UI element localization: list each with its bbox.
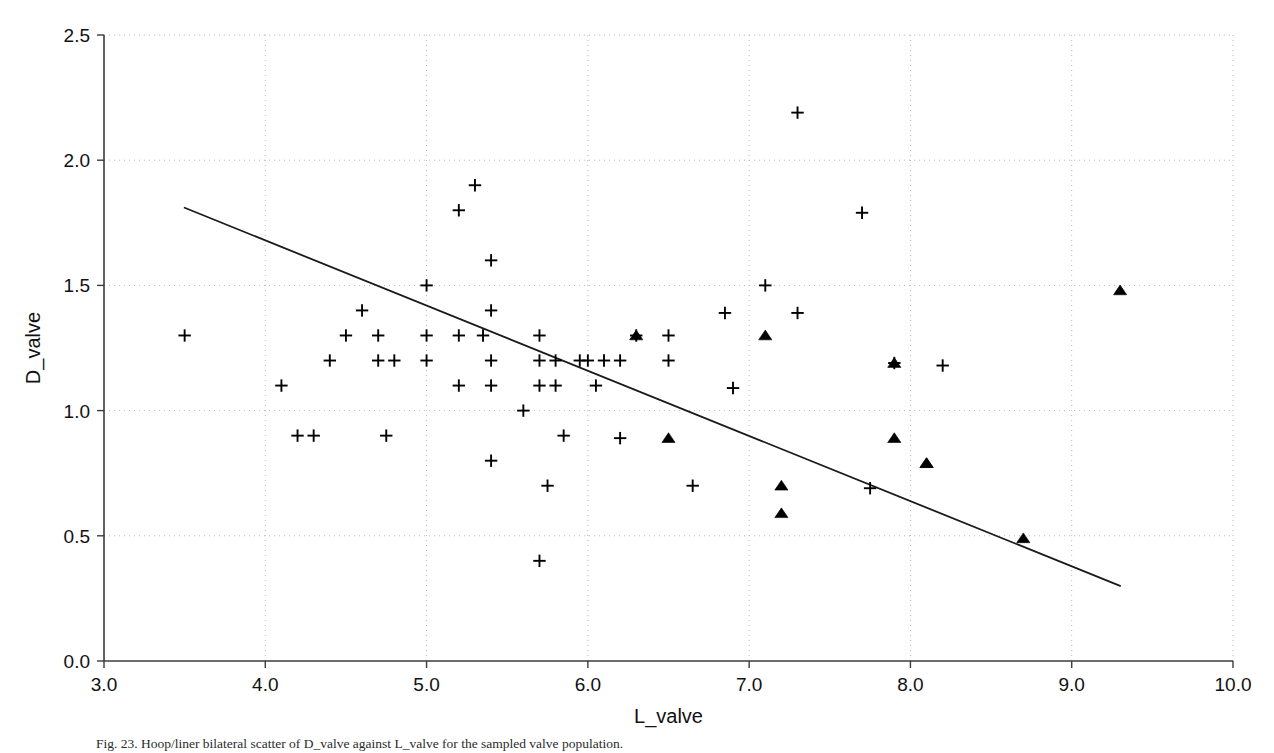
y-tick-label: 0.5 bbox=[64, 526, 90, 547]
x-tick-label: 7.0 bbox=[736, 674, 762, 695]
figure-container: 3.04.05.06.07.08.09.010.00.00.51.01.52.0… bbox=[0, 0, 1274, 753]
x-tick-label: 8.0 bbox=[897, 674, 923, 695]
y-tick-label: 1.5 bbox=[64, 275, 90, 296]
scatter-plot: 3.04.05.06.07.08.09.010.00.00.51.01.52.0… bbox=[0, 0, 1274, 753]
x-tick-label: 3.0 bbox=[91, 674, 117, 695]
x-tick-label: 6.0 bbox=[575, 674, 601, 695]
x-tick-label: 4.0 bbox=[252, 674, 278, 695]
y-tick-label: 1.0 bbox=[64, 401, 90, 422]
y-tick-label: 0.0 bbox=[64, 651, 90, 672]
x-axis-title: L_valve bbox=[634, 705, 703, 728]
x-tick-label: 10.0 bbox=[1215, 674, 1252, 695]
y-tick-label: 2.5 bbox=[64, 25, 90, 46]
plot-background bbox=[0, 0, 1274, 753]
y-axis-title: D_valve bbox=[22, 312, 45, 384]
y-tick-label: 2.0 bbox=[64, 150, 90, 171]
x-tick-label: 9.0 bbox=[1059, 674, 1085, 695]
figure-caption: Fig. 23. Hoop/liner bilateral scatter of… bbox=[96, 735, 1196, 753]
x-tick-label: 5.0 bbox=[413, 674, 439, 695]
